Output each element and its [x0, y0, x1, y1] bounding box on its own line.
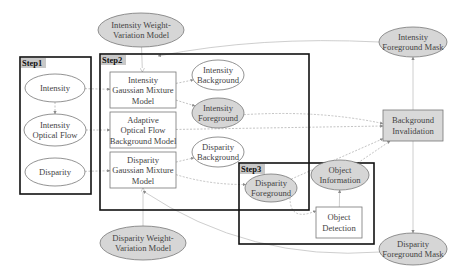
- node-label-line: Variation Model: [113, 30, 170, 40]
- node-label-line: Gaussian Mixture: [112, 165, 174, 175]
- edge-intensity-weight-variation-to-intensity-gmm: [142, 47, 143, 72]
- edge-object-information-to-background-invalidation: [358, 141, 391, 163]
- node-label-line: Gaussian Mixture: [112, 85, 174, 95]
- node-label-line: Disparity: [127, 155, 160, 165]
- node-disparity-fg-mask: DisparityForeground Mask: [379, 233, 447, 265]
- node-label-line: Intensity: [128, 75, 159, 85]
- node-background-invalidation: BackgroundInvalidation: [383, 110, 443, 141]
- node-label-line: Optical Flow: [120, 125, 166, 135]
- node-intensity-foreground: IntensityForeground: [192, 98, 244, 128]
- node-label-line: Variation Model: [115, 243, 172, 253]
- node-label-line: Intensity Weight-: [111, 20, 171, 30]
- node-label-line: Foreground Mask: [382, 249, 444, 259]
- node-disparity-foreground: DisparityForeground: [245, 174, 297, 202]
- edge-disparity-to-disparity-gmm: [85, 171, 110, 172]
- node-label-line: Background: [392, 115, 435, 125]
- node-label-line: Foreground Mask: [382, 42, 444, 52]
- node-disparity: Disparity: [25, 158, 85, 186]
- node-label-line: Object: [329, 165, 353, 175]
- node-intensity-weight-variation: Intensity Weight-Variation Model: [98, 13, 184, 47]
- node-label-line: Information: [319, 175, 361, 185]
- node-intensity-gmm: IntensityGaussian MixtureModel: [110, 72, 176, 108]
- node-label-line: Intensity: [203, 65, 234, 75]
- node-disparity-background: DisparityBackground: [192, 137, 244, 167]
- node-label-line: Disparity: [202, 142, 235, 152]
- node-label-line: Background: [197, 75, 240, 85]
- node-label-line: Optical Flow: [32, 130, 78, 140]
- node-label-line: Intensity: [40, 83, 71, 93]
- node-label-line: Model: [132, 176, 155, 186]
- node-disparity-weight-variation: Disparity Weight-Variation Model: [100, 226, 186, 260]
- node-label-line: Foreground: [198, 113, 239, 123]
- node-intensity-fg-mask: IntensityForeground Mask: [379, 27, 447, 57]
- nodes-layer: IntensityIntensityOptical FlowDisparityI…: [24, 13, 447, 265]
- diagram-canvas: Step1 Step2 Step3 IntensityIntensityOpti…: [0, 0, 469, 271]
- node-label-line: Disparity: [255, 178, 288, 188]
- node-label-line: Foreground: [251, 188, 292, 198]
- node-label-line: Model: [132, 96, 155, 106]
- edge-disparity-foreground-to-object-detection: [290, 198, 316, 215]
- edge-disparity-gmm-to-disparity-background: [176, 158, 194, 162]
- node-intensity-background: IntensityBackground: [192, 60, 244, 90]
- node-label-line: Intensity: [40, 120, 71, 130]
- edge-intensity-gmm-to-intensity-background: [176, 80, 193, 83]
- edge-disparity-gmm-to-disparity-foreground: [176, 175, 246, 185]
- node-adaptive-of-bg-model: AdaptiveOptical FlowBackground Model: [110, 112, 177, 148]
- edge-intensity-to-intensity-gmm: [85, 89, 110, 90]
- node-label-line: Disparity Weight-: [112, 233, 174, 243]
- node-intensity: Intensity: [25, 74, 85, 102]
- node-label-line: Adaptive: [127, 115, 159, 125]
- node-label-line: Disparity: [39, 167, 72, 177]
- node-label-line: Detection: [322, 223, 356, 233]
- step3-label: Step3: [241, 164, 261, 174]
- node-label-line: Invalidation: [392, 126, 434, 136]
- node-label-line: Background: [197, 152, 240, 162]
- node-object-information: ObjectInformation: [311, 160, 369, 190]
- node-label-line: Intensity: [203, 103, 234, 113]
- node-object-detection: ObjectDetection: [316, 207, 362, 238]
- node-label-line: Background Model: [110, 136, 177, 146]
- edge-intensity-gmm-to-intensity-foreground: [176, 100, 195, 106]
- node-intensity-optical-flow: IntensityOptical Flow: [24, 114, 86, 146]
- step2-label: Step2: [102, 55, 122, 65]
- step1-label: Step1: [22, 58, 42, 68]
- node-label-line: Object: [328, 212, 352, 222]
- node-label-line: Intensity: [398, 32, 429, 42]
- node-disparity-gmm: DisparityGaussian MixtureModel: [110, 152, 176, 188]
- node-label-line: Disparity: [397, 239, 430, 249]
- edge-intensity-foreground-to-background-invalidation: [244, 113, 383, 123]
